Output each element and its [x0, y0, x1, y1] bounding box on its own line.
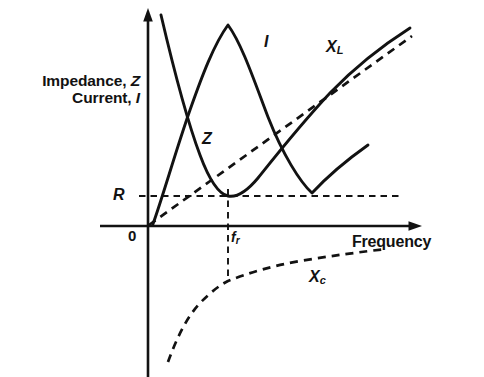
inductive-reactance-symbol: X	[326, 38, 337, 55]
y-axis-label-impedance-symbol: Z	[131, 72, 140, 89]
curve-capacitive-reactance	[168, 249, 386, 362]
current-curve-label: I	[264, 33, 268, 51]
resonant-frequency-label: fr	[231, 230, 240, 246]
x-axis-arrow-icon	[409, 221, 423, 231]
inductive-reactance-subscript: L	[337, 44, 344, 56]
resonance-figure: Impedance, Z Current, I Frequency R 0 fr…	[0, 0, 484, 377]
y-axis-label-line-impedance: Impedance, Z	[14, 72, 140, 89]
origin-label: 0	[128, 228, 136, 245]
capacitive-reactance-subscript: c	[320, 274, 326, 286]
y-axis-label-current-text: Current,	[72, 89, 136, 106]
curve-impedance	[161, 15, 410, 196]
capacitive-reactance-symbol: X	[309, 268, 320, 285]
resistance-tick-label: R	[113, 186, 125, 204]
y-axis-label-impedance-text: Impedance,	[42, 72, 131, 89]
axis-group	[100, 8, 422, 377]
x-axis-label: Frequency	[352, 233, 431, 251]
figure-canvas	[0, 0, 484, 377]
y-axis-label-line-current: Current, I	[14, 89, 140, 106]
impedance-curve-label: Z	[202, 130, 212, 148]
inductive-reactance-curve-label: XL	[326, 38, 343, 57]
y-axis-arrow-icon	[143, 8, 153, 22]
y-axis-label-current-symbol: I	[136, 89, 140, 106]
resonant-frequency-subscript: r	[236, 235, 240, 246]
capacitive-reactance-curve-label: Xc	[309, 268, 326, 287]
y-axis-label: Impedance, Z Current, I	[14, 72, 140, 107]
